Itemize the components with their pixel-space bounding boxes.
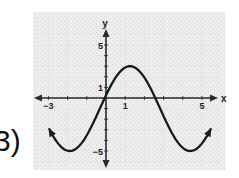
y-tick-label: 5 — [98, 41, 103, 51]
x-tick-label: 5 — [199, 101, 204, 111]
x-tick-label: 1 — [123, 101, 128, 111]
y-tick-label: −5 — [93, 147, 103, 157]
y-axis-label: y — [102, 18, 108, 29]
y-tick-label: 1 — [98, 83, 103, 93]
x-tick-label: −3 — [43, 101, 53, 111]
function-graph: −31551−5yx — [0, 0, 239, 178]
x-axis-label: x — [221, 93, 227, 104]
